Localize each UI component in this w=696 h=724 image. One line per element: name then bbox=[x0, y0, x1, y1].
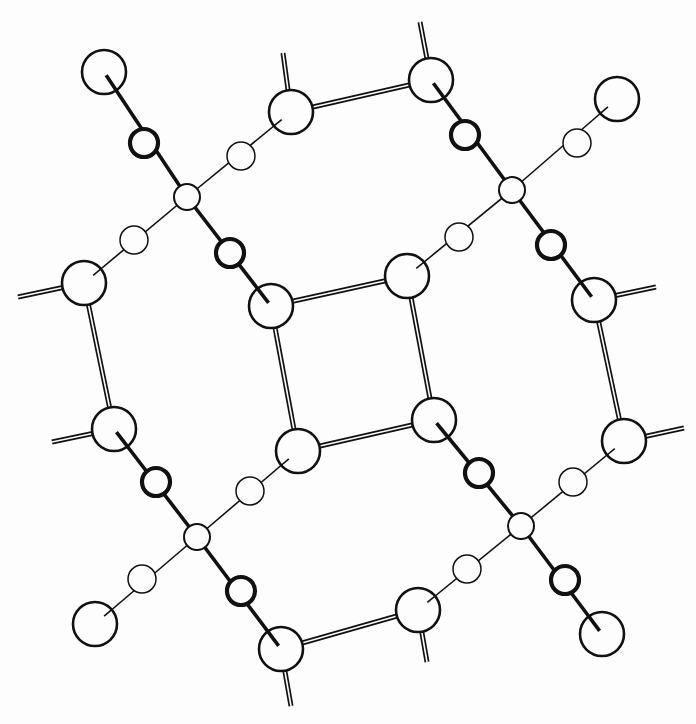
medium-atom bbox=[451, 121, 479, 149]
large-atom bbox=[595, 77, 639, 121]
large-atom bbox=[572, 278, 616, 322]
atoms-layer bbox=[62, 50, 646, 671]
large-atom bbox=[409, 58, 453, 102]
large-atom bbox=[62, 261, 106, 305]
medium-atom bbox=[227, 577, 255, 605]
small-atom bbox=[453, 555, 481, 583]
center-atom bbox=[499, 177, 525, 203]
large-atom bbox=[249, 284, 293, 328]
thick-bonds-layer bbox=[104, 72, 602, 649]
medium-atom bbox=[537, 231, 565, 259]
large-atom bbox=[82, 50, 126, 94]
center-atom bbox=[508, 513, 534, 539]
medium-atom bbox=[465, 459, 493, 487]
small-atom bbox=[563, 129, 591, 157]
network-svg bbox=[0, 0, 696, 724]
medium-atom bbox=[216, 239, 244, 267]
center-atom bbox=[174, 184, 200, 210]
small-atom bbox=[445, 223, 473, 251]
double-bonds-layer bbox=[18, 22, 684, 706]
small-atom bbox=[128, 565, 156, 593]
large-atom bbox=[276, 429, 320, 473]
large-atom bbox=[92, 407, 136, 451]
medium-atom bbox=[551, 566, 579, 594]
thin-bonds-layer bbox=[84, 99, 624, 624]
large-atom bbox=[269, 90, 313, 134]
small-atom bbox=[120, 226, 148, 254]
large-atom bbox=[259, 627, 303, 671]
small-atom bbox=[236, 477, 264, 505]
large-atom bbox=[396, 588, 440, 632]
large-atom bbox=[412, 398, 456, 442]
medium-atom bbox=[130, 129, 158, 157]
large-atom bbox=[602, 419, 646, 463]
large-atom bbox=[580, 612, 624, 656]
small-atom bbox=[559, 468, 587, 496]
medium-atom bbox=[142, 468, 170, 496]
large-atom bbox=[385, 254, 429, 298]
large-atom bbox=[73, 602, 117, 646]
crystal-structure-diagram bbox=[0, 0, 696, 724]
center-atom bbox=[184, 524, 210, 550]
small-atom bbox=[227, 142, 255, 170]
